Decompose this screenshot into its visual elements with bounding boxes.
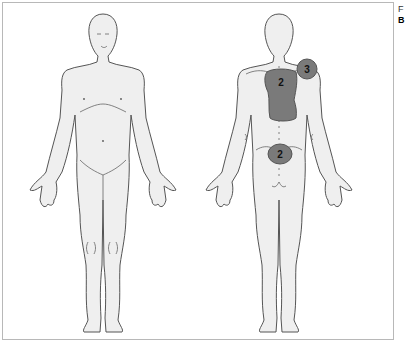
front-view — [30, 14, 176, 332]
pain-region-upper-back: 2 — [265, 69, 297, 121]
upper-back-score: 2 — [278, 77, 284, 88]
body-diagram: 2 3 2 — [0, 0, 408, 344]
back-body-outline — [206, 14, 352, 332]
front-body-outline — [30, 14, 176, 332]
front-nipple-right — [120, 98, 122, 100]
right-shoulder-score: 3 — [304, 64, 310, 75]
pain-region-lower-back: 2 — [268, 144, 292, 164]
back-view — [206, 14, 352, 332]
lower-back-score: 2 — [277, 149, 283, 160]
pain-region-right-shoulder: 3 — [297, 59, 317, 79]
front-navel — [102, 140, 104, 142]
front-nipple-left — [83, 98, 85, 100]
